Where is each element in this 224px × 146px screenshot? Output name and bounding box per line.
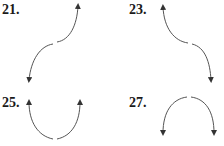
down-arrow-icon <box>191 97 214 133</box>
up-arrow-icon <box>57 6 78 42</box>
curve-25 <box>29 102 80 139</box>
up-arrow-icon <box>163 7 188 43</box>
down-arrow-icon <box>163 97 187 133</box>
up-arrow-icon <box>57 102 80 139</box>
down-arrow-icon <box>192 44 211 80</box>
down-arrow-icon <box>29 44 53 80</box>
curve-23 <box>163 7 211 80</box>
up-arrow-icon <box>29 102 53 139</box>
end-behavior-sketches <box>0 0 224 146</box>
curve-21 <box>29 6 78 80</box>
curve-27 <box>163 97 214 133</box>
